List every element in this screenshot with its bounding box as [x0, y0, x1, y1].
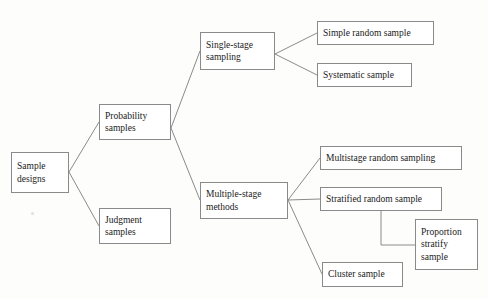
- connector-probability-samples-to-single-stage-sampling: [171, 51, 200, 128]
- node-systematic-sample[interactable]: Systematic sample: [317, 63, 412, 87]
- node-simple-random-sample[interactable]: Simple random sample: [317, 21, 434, 45]
- node-judgment-samples[interactable]: Judgment samples: [99, 208, 171, 244]
- connector-single-stage-sampling-to-systematic-sample: [275, 54, 317, 75]
- node-label-single-stage-sampling: Single-stage sampling: [201, 39, 274, 64]
- node-label-multiple-stage-methods: Multiple-stage methods: [201, 188, 287, 213]
- connector-sample-designs-to-judgment-samples: [69, 172, 99, 226]
- node-label-multistage-random-sampling: Multistage random sampling: [321, 152, 461, 165]
- node-label-proportion-stratify-sample: Proportion stratify sample: [416, 226, 477, 264]
- node-multistage-random-sampling[interactable]: Multistage random sampling: [320, 146, 462, 170]
- connector-multiple-stage-methods-to-cluster-sample: [288, 200, 322, 274]
- tree-diagram: Sample designsProbability samplesJudgmen…: [0, 0, 488, 299]
- node-label-probability-samples: Probability samples: [100, 110, 170, 135]
- node-single-stage-sampling[interactable]: Single-stage sampling: [200, 32, 275, 70]
- connector-multiple-stage-methods-to-multistage-random-sampling: [288, 158, 320, 200]
- node-proportion-stratify-sample[interactable]: Proportion stratify sample: [415, 219, 478, 270]
- node-label-sample-designs: Sample designs: [12, 160, 68, 185]
- connector-sample-designs-to-probability-samples: [69, 122, 99, 172]
- node-label-stratified-random-sample: Stratified random sample: [321, 193, 441, 206]
- connector-single-stage-sampling-to-simple-random-sample: [275, 33, 317, 54]
- node-multiple-stage-methods[interactable]: Multiple-stage methods: [200, 182, 288, 219]
- node-cluster-sample[interactable]: Cluster sample: [322, 262, 403, 287]
- connector-multiple-stage-methods-to-stratified-random-sample: [288, 199, 320, 200]
- connector-probability-samples-to-multiple-stage-methods: [171, 128, 200, 200]
- node-label-judgment-samples: Judgment samples: [100, 214, 170, 239]
- node-sample-designs[interactable]: Sample designs: [11, 152, 69, 193]
- node-label-systematic-sample: Systematic sample: [318, 69, 411, 82]
- node-label-cluster-sample: Cluster sample: [323, 268, 402, 281]
- node-stratified-random-sample[interactable]: Stratified random sample: [320, 187, 442, 211]
- node-label-simple-random-sample: Simple random sample: [318, 27, 433, 40]
- scan-artifact: [31, 212, 34, 215]
- connector-stratified-random-sample-to-proportion-stratify-sample: [381, 211, 415, 245]
- node-probability-samples[interactable]: Probability samples: [99, 104, 171, 140]
